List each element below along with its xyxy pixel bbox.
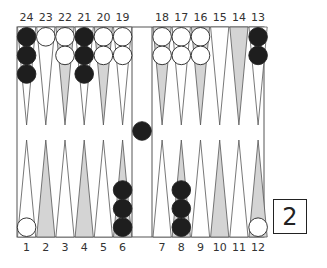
white-checker[interactable] xyxy=(172,28,191,47)
point-label-13: 13 xyxy=(251,11,265,24)
white-checker[interactable] xyxy=(153,28,172,47)
black-checker[interactable] xyxy=(17,28,36,47)
white-checker[interactable] xyxy=(17,218,36,237)
die: 2 xyxy=(273,199,307,234)
white-checker[interactable] xyxy=(37,28,56,47)
black-checker[interactable] xyxy=(75,65,94,84)
point-label-2: 2 xyxy=(42,241,49,254)
black-checker[interactable] xyxy=(113,199,132,218)
point-label-16: 16 xyxy=(194,11,208,24)
black-checker[interactable] xyxy=(172,181,191,200)
point-label-1: 1 xyxy=(23,241,30,254)
black-checker[interactable] xyxy=(17,65,36,84)
white-checker[interactable] xyxy=(249,218,268,237)
point-label-9: 9 xyxy=(197,241,204,254)
point-label-11: 11 xyxy=(232,241,246,254)
point-label-8: 8 xyxy=(178,241,185,254)
point-label-22: 22 xyxy=(58,11,72,24)
white-checker[interactable] xyxy=(153,46,172,65)
point-label-6: 6 xyxy=(119,241,126,254)
white-checker[interactable] xyxy=(113,28,132,47)
point-label-19: 19 xyxy=(116,11,130,24)
point-label-20: 20 xyxy=(96,11,110,24)
point-label-21: 21 xyxy=(77,11,91,24)
white-checker[interactable] xyxy=(56,46,75,65)
bar-black-checker[interactable] xyxy=(133,122,152,141)
white-checker[interactable] xyxy=(191,46,210,65)
black-checker[interactable] xyxy=(75,28,94,47)
point-label-23: 23 xyxy=(39,11,53,24)
point-label-7: 7 xyxy=(159,241,166,254)
black-checker[interactable] xyxy=(113,181,132,200)
white-checker[interactable] xyxy=(94,28,113,47)
point-label-17: 17 xyxy=(174,11,188,24)
point-label-5: 5 xyxy=(100,241,107,254)
white-checker[interactable] xyxy=(191,28,210,47)
white-checker[interactable] xyxy=(56,28,75,47)
black-checker[interactable] xyxy=(172,199,191,218)
point-label-3: 3 xyxy=(62,241,69,254)
black-checker[interactable] xyxy=(249,28,268,47)
black-checker[interactable] xyxy=(172,218,191,237)
white-checker[interactable] xyxy=(113,46,132,65)
white-checker[interactable] xyxy=(172,46,191,65)
point-label-10: 10 xyxy=(213,241,227,254)
black-checker[interactable] xyxy=(249,46,268,65)
white-checker[interactable] xyxy=(94,46,113,65)
point-label-12: 12 xyxy=(251,241,265,254)
point-label-18: 18 xyxy=(155,11,169,24)
black-checker[interactable] xyxy=(75,46,94,65)
point-label-14: 14 xyxy=(232,11,246,24)
black-checker[interactable] xyxy=(17,46,36,65)
point-label-4: 4 xyxy=(81,241,88,254)
black-checker[interactable] xyxy=(113,218,132,237)
point-label-15: 15 xyxy=(213,11,227,24)
point-label-24: 24 xyxy=(20,11,34,24)
